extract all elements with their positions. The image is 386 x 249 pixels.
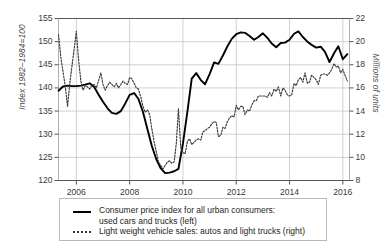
solid-line-swatch [73, 211, 91, 213]
y-tick-label-left: 150 [31, 36, 53, 46]
x-tick-label: 2006 [59, 187, 93, 197]
y-tick-label-left: 120 [31, 175, 53, 185]
y-tick-label-left: 125 [31, 152, 53, 162]
chart-legend: Consumer price index for all urban consu… [59, 198, 327, 241]
legend-entry-cpi-line1: Consumer price index for all urban consu… [99, 205, 275, 215]
y-tick-label-right: 18 [356, 59, 378, 69]
dotted-line-swatch [73, 231, 91, 233]
y-tick-label-right: 16 [356, 82, 378, 92]
x-tick-label: 2014 [273, 187, 307, 197]
y-tick-label-left: 135 [31, 106, 53, 116]
y-tick-label-right: 10 [356, 152, 378, 162]
y-tick-label-left: 130 [31, 129, 53, 139]
y-tick-label-right: 14 [356, 106, 378, 116]
y-tick-label-right: 8 [356, 175, 378, 185]
x-tick-label: 2016 [326, 187, 360, 197]
legend-entry-cpi-line2: used cars and trucks (left) [99, 216, 197, 226]
y-tick-label-right: 20 [356, 36, 378, 46]
x-tick-label: 2010 [166, 187, 200, 197]
figure-container: Index 1982–1984=100 Millions of units 12… [0, 0, 386, 249]
y-tick-label-left: 140 [31, 82, 53, 92]
x-tick-label: 2008 [113, 187, 147, 197]
y-tick-label-left: 155 [31, 13, 53, 23]
y-tick-label-right: 12 [356, 129, 378, 139]
y-tick-label-left: 145 [31, 59, 53, 69]
legend-entry-vehicle-sales: Light weight vehicle sales: autos and li… [99, 226, 305, 236]
y-tick-label-right: 22 [356, 13, 378, 23]
series-line-cpi [59, 31, 348, 173]
x-tick-label: 2012 [219, 187, 253, 197]
left-axis-title: Index 1982–1984=100 [17, 7, 27, 127]
